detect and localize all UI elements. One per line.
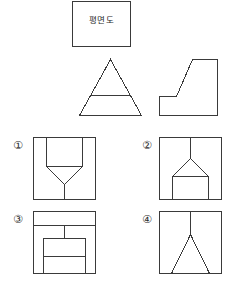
option-4-figure[interactable] (159, 211, 222, 278)
side-view-figure (159, 59, 219, 117)
option-3-figure[interactable] (33, 211, 96, 278)
option-2-figure[interactable] (159, 137, 222, 204)
option-4-label: ④ (140, 213, 154, 227)
front-view-triangle-outline (80, 60, 142, 116)
option-1-label: ① (11, 139, 25, 153)
front-view-figure (79, 59, 143, 117)
side-view-l-shape-outline (160, 60, 218, 116)
question-sheet: 평면도 ①②③④ (0, 0, 236, 296)
option-3-label: ③ (11, 213, 25, 227)
option-3-outer-square (34, 212, 96, 274)
plan-view-caption-box: 평면도 (72, 1, 131, 47)
option-2-label: ② (140, 139, 154, 153)
option-1-figure[interactable] (33, 137, 96, 204)
plan-view-caption-label: 평면도 (73, 15, 130, 25)
